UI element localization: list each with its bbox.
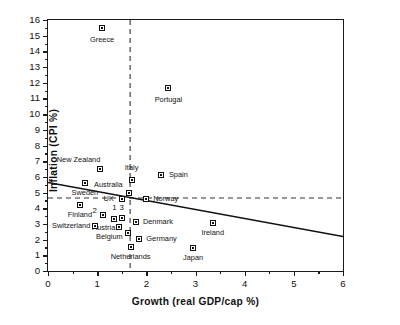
data-point-number-label: 1 <box>112 204 116 212</box>
data-point-marker <box>210 220 216 226</box>
data-point-marker <box>126 190 132 196</box>
data-point-label: Ireland <box>201 229 224 236</box>
x-axis-tick-label: 6 <box>340 279 345 289</box>
y-axis-tick-label: 8 <box>35 141 40 151</box>
y-axis-tick-label: 3 <box>35 219 40 229</box>
x-axis-tick <box>196 271 197 276</box>
data-point-marker <box>128 244 134 250</box>
data-point-label: Australia <box>94 181 123 188</box>
data-point-label: Italy <box>125 164 139 171</box>
x-axis-minor-tick <box>122 271 123 274</box>
data-point-marker <box>111 216 117 222</box>
data-point-marker <box>99 25 105 31</box>
data-point-marker <box>77 202 83 208</box>
y-axis-tick <box>43 255 48 256</box>
data-point-label: Japan <box>183 254 203 261</box>
y-axis-tick-label: 1 <box>35 251 40 261</box>
y-axis-tick-label: 14 <box>29 47 40 57</box>
data-point-marker <box>119 196 125 202</box>
x-axis-tick <box>294 271 295 276</box>
y-axis-tick-label: 16 <box>29 15 40 25</box>
data-point-label: Netherlands <box>111 253 151 260</box>
data-point-marker <box>97 166 103 172</box>
y-axis-tick-label: 5 <box>35 188 40 198</box>
y-axis-tick <box>43 36 48 37</box>
data-point-marker <box>125 230 131 236</box>
y-axis-tick-label: 13 <box>29 62 40 72</box>
data-point-marker <box>119 215 125 221</box>
y-axis-tick-label: 4 <box>35 203 40 213</box>
y-axis-minor-tick <box>45 44 48 45</box>
data-point-marker <box>158 172 164 178</box>
y-axis-minor-tick <box>45 28 48 29</box>
data-point-label: Germany <box>146 235 176 242</box>
y-axis-tick <box>43 20 48 21</box>
x-axis-minor-tick <box>220 271 221 274</box>
x-axis-minor-tick <box>73 271 74 274</box>
plot-canvas: GreecePortugalNew ZealandSpainItalySwede… <box>48 20 343 271</box>
data-point-number-label: 3 <box>120 204 124 212</box>
data-point-marker <box>129 177 135 183</box>
y-axis-tick-label: 2 <box>35 235 40 245</box>
y-axis-minor-tick <box>45 263 48 264</box>
data-point-marker <box>190 245 196 251</box>
y-axis-tick-label: 6 <box>35 172 40 182</box>
x-axis-title: Growth (real GDP/cap %) <box>47 296 344 307</box>
y-axis-tick-label: 9 <box>35 125 40 135</box>
data-point-label: Sweden <box>72 189 99 196</box>
y-axis-title: Inflation (CPI %) <box>48 51 59 251</box>
x-axis-tick-label: 2 <box>144 279 149 289</box>
x-axis-tick <box>48 271 49 276</box>
data-point-label: Denmark <box>143 218 173 225</box>
data-point-marker <box>116 224 122 230</box>
x-axis-tick <box>343 271 344 276</box>
y-axis-tick-label: 7 <box>35 156 40 166</box>
data-point-label: UK <box>104 195 114 202</box>
scatter-chart-figure: GreecePortugalNew ZealandSpainItalySwede… <box>0 0 400 325</box>
x-axis-tick <box>97 271 98 276</box>
data-point-label: Norway <box>153 195 178 202</box>
y-axis-tick-label: 12 <box>29 78 40 88</box>
data-point-label: New Zealand <box>57 156 101 163</box>
y-axis-tick-label: 0 <box>35 266 40 276</box>
x-axis-tick-label: 3 <box>193 279 198 289</box>
data-point-label: Belgium <box>96 233 123 240</box>
x-axis-tick <box>146 271 147 276</box>
data-point-marker <box>100 212 106 218</box>
data-point-label: Spain <box>169 171 188 178</box>
x-axis-minor-tick <box>171 271 172 274</box>
data-point-marker <box>136 236 142 242</box>
y-axis-tick-label: 15 <box>29 31 40 41</box>
plot-area: GreecePortugalNew ZealandSpainItalySwede… <box>47 19 344 272</box>
data-point-marker <box>165 85 171 91</box>
x-axis-tick-label: 4 <box>242 279 247 289</box>
data-point-marker <box>143 196 149 202</box>
x-axis-tick-label: 5 <box>291 279 296 289</box>
x-axis-tick <box>245 271 246 276</box>
x-axis-tick-label: 0 <box>45 279 50 289</box>
data-point-label: Greece <box>90 36 114 43</box>
y-axis-tick-label: 11 <box>30 94 40 104</box>
data-point-marker <box>82 180 88 186</box>
data-point-marker <box>133 219 139 225</box>
data-point-number-label: 2 <box>93 207 97 215</box>
x-axis-minor-tick <box>269 271 270 274</box>
x-axis-minor-tick <box>318 271 319 274</box>
data-point-label: Finland <box>68 211 92 218</box>
data-point-marker <box>92 223 98 229</box>
data-point-label: Portugal <box>155 96 183 103</box>
y-axis-tick-label: 10 <box>29 109 40 119</box>
x-axis-tick-label: 1 <box>94 279 99 289</box>
